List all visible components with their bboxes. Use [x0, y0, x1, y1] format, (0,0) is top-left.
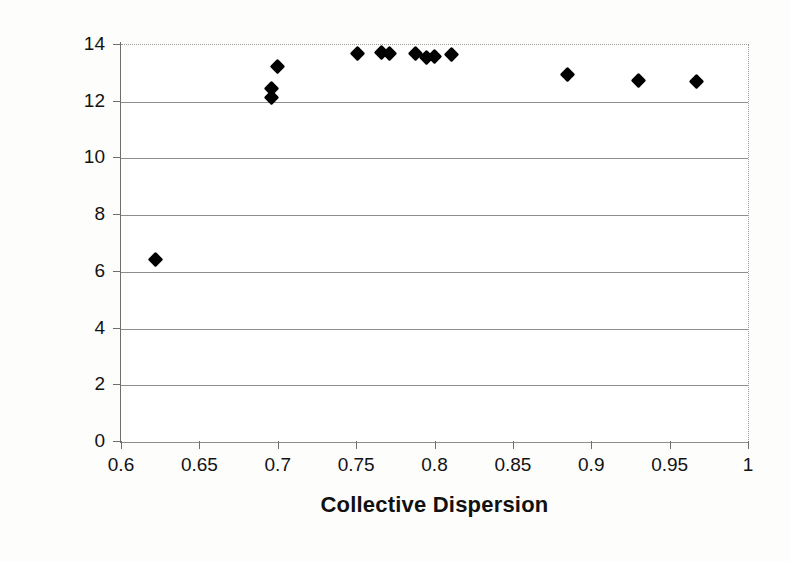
y-tick-mark [113, 328, 121, 329]
data-point-marker [688, 74, 704, 90]
x-axis-title: Collective Dispersion [121, 492, 748, 518]
scatter-chart-figure: Collective Fitness 02468101214 0.60.650.… [0, 0, 790, 562]
x-tick-label: 1 [708, 455, 788, 474]
x-tick-label: 0.6 [81, 455, 161, 474]
data-point-marker [560, 67, 576, 83]
y-axis-title: Collective Fitness [0, 0, 56, 562]
gridline [121, 158, 748, 159]
y-tick-mark [113, 441, 121, 442]
x-tick-label: 0.7 [238, 455, 318, 474]
x-tick-mark [748, 441, 749, 449]
data-point-marker [350, 46, 366, 62]
data-point-marker [270, 58, 286, 74]
x-tick-label: 0.75 [316, 455, 396, 474]
data-point-marker [630, 73, 646, 89]
y-tick-mark [113, 214, 121, 215]
y-tick-mark [113, 384, 121, 385]
x-tick-label: 0.8 [395, 455, 475, 474]
y-tick-mark [113, 157, 121, 158]
x-tick-mark [356, 441, 357, 449]
x-tick-label: 0.85 [473, 455, 553, 474]
data-point-marker [444, 47, 460, 63]
x-tick-label: 0.95 [630, 455, 710, 474]
y-tick-label: 4 [59, 318, 105, 337]
x-tick-mark [670, 441, 671, 449]
data-point-marker [148, 251, 164, 267]
y-tick-label: 12 [59, 91, 105, 110]
y-tick-label: 0 [59, 431, 105, 450]
x-tick-mark [121, 441, 122, 449]
y-tick-mark [113, 101, 121, 102]
y-tick-label: 10 [59, 147, 105, 166]
x-tick-mark [278, 441, 279, 449]
x-tick-mark [591, 441, 592, 449]
y-tick-mark [113, 44, 121, 45]
x-tick-mark [513, 441, 514, 449]
plot-area [121, 44, 749, 442]
gridline [121, 102, 748, 103]
x-tick-mark [435, 441, 436, 449]
gridline [121, 272, 748, 273]
y-tick-label: 6 [59, 261, 105, 280]
gridline [121, 385, 748, 386]
data-point-marker [264, 90, 280, 106]
y-tick-label: 14 [59, 34, 105, 53]
x-tick-label: 0.65 [159, 455, 239, 474]
x-tick-mark [199, 441, 200, 449]
y-tick-label: 2 [59, 374, 105, 393]
y-tick-mark [113, 271, 121, 272]
gridline [121, 215, 748, 216]
x-tick-label: 0.9 [551, 455, 631, 474]
gridline [121, 329, 748, 330]
y-tick-label: 8 [59, 204, 105, 223]
